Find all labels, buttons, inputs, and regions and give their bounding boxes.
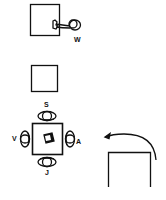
person-a-icon: [66, 131, 75, 147]
person-v-icon: [21, 131, 30, 147]
person-j-icon: [38, 158, 56, 167]
panel-3: [21, 112, 75, 167]
square-middle: [32, 66, 58, 92]
panel-1: [31, 5, 81, 36]
label-s: S: [44, 101, 49, 108]
label-w: W: [74, 36, 81, 43]
open-box: [109, 153, 151, 188]
label-v: V: [12, 135, 17, 142]
curved-arrow-icon: [106, 134, 156, 160]
table-object-icon: [44, 133, 54, 143]
panel-4: [105, 134, 156, 188]
person-w-icon: [53, 20, 81, 30]
person-s-icon: [38, 112, 56, 121]
label-a: A: [76, 138, 81, 145]
diagram-canvas: [0, 0, 166, 200]
panel-2: [32, 66, 58, 92]
label-j: J: [45, 169, 49, 176]
